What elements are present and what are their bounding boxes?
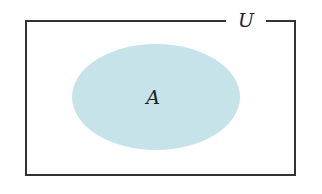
- set-a-label: A: [144, 86, 160, 108]
- universe-label: U: [238, 9, 255, 31]
- venn-diagram: U A: [0, 0, 322, 194]
